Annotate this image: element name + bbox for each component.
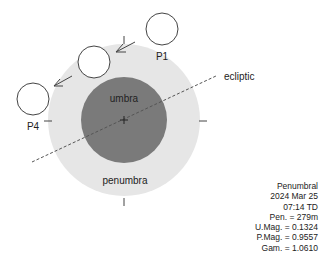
- gamma-value: Gam. = 1.0610: [255, 243, 318, 253]
- penumbra-label: penumbra: [102, 175, 147, 186]
- eclipse-time: 07:14 TD: [255, 202, 318, 212]
- penumbral-magnitude: P.Mag. = 0.9557: [255, 232, 318, 242]
- p1-label: P1: [156, 51, 169, 62]
- ecliptic-label: ecliptic: [224, 71, 255, 82]
- moon-p4: [17, 83, 49, 115]
- moon-mid: [78, 46, 110, 78]
- eclipse-info-panel: Penumbral 2024 Mar 25 07:14 TD Pen. = 27…: [255, 181, 318, 253]
- eclipse-date: 2024 Mar 25: [255, 191, 318, 201]
- penumbral-duration: Pen. = 279m: [255, 212, 318, 222]
- eclipse-type: Penumbral: [255, 181, 318, 191]
- umbral-magnitude: U.Mag. = 0.1324: [255, 222, 318, 232]
- moon-p1: [146, 13, 178, 45]
- umbra-label: umbra: [110, 93, 139, 104]
- p4-label: P4: [27, 121, 40, 132]
